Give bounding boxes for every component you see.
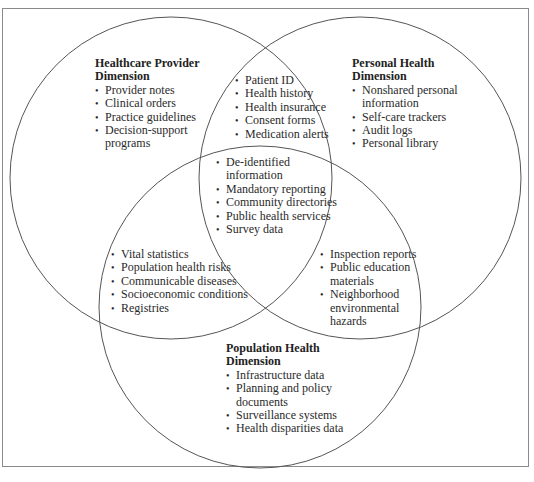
list-item: •Registries	[111, 302, 248, 315]
bullet-icon: •	[111, 288, 115, 301]
bullet-icon: •	[352, 111, 356, 124]
bullet-icon: •	[95, 97, 99, 110]
provider-title: Healthcare Provider Dimension	[95, 57, 200, 84]
list-item: •Consent forms	[235, 114, 329, 127]
list-item: •Clinical orders	[95, 97, 200, 110]
provider-population-list: •Vital statistics •Population health ris…	[111, 248, 248, 315]
bullet-icon: •	[216, 156, 220, 169]
bullet-icon: •	[111, 302, 115, 315]
list-item: •Audit logs	[352, 124, 458, 137]
bullet-icon: •	[216, 210, 220, 223]
all-three-list: •De-identified information •Mandatory re…	[216, 156, 337, 236]
bullet-icon: •	[352, 124, 356, 137]
bullet-icon: •	[111, 275, 115, 288]
bullet-icon: •	[216, 196, 220, 209]
list-item: •Inspection reports	[320, 248, 416, 261]
region-provider-population: •Vital statistics •Population health ris…	[111, 248, 248, 315]
list-item: •Self-care trackers	[352, 111, 458, 124]
list-item: •Nonshared personal information	[352, 84, 458, 111]
bullet-icon: •	[235, 128, 239, 141]
bullet-icon: •	[320, 288, 324, 301]
region-provider-only: Healthcare Provider Dimension •Provider …	[95, 57, 200, 151]
bullet-icon: •	[352, 84, 356, 97]
personal-title: Personal Health Dimension	[352, 57, 458, 84]
bullet-icon: •	[95, 84, 99, 97]
region-personal-only: Personal Health Dimension •Nonshared per…	[352, 57, 458, 151]
list-item: •Survey data	[216, 223, 337, 236]
list-item: •Medication alerts	[235, 128, 329, 141]
population-title: Population Health Dimension	[226, 342, 343, 369]
list-item: •Health history	[235, 87, 329, 100]
list-item: •Neighborhood environmental hazards	[320, 288, 416, 328]
list-item: •Infrastructure data	[226, 369, 343, 382]
list-item: •Socioeconomic conditions	[111, 288, 248, 301]
list-item: •Planning and policy documents	[226, 382, 343, 409]
list-item: •Mandatory reporting	[216, 183, 337, 196]
bullet-icon: •	[320, 248, 324, 261]
bullet-icon: •	[216, 223, 220, 236]
list-item: •Decision-support programs	[95, 124, 200, 151]
list-item: •Personal library	[352, 137, 458, 150]
list-item: •Vital statistics	[111, 248, 248, 261]
bullet-icon: •	[111, 261, 115, 274]
bullet-icon: •	[216, 183, 220, 196]
bullet-icon: •	[226, 382, 230, 395]
personal-population-list: •Inspection reports •Public education ma…	[320, 248, 416, 328]
population-list: •Infrastructure data •Planning and polic…	[226, 369, 343, 436]
list-item: •Public education materials	[320, 261, 416, 288]
provider-list: •Provider notes •Clinical orders •Practi…	[95, 84, 200, 151]
provider-personal-list: •Patient ID •Health history •Health insu…	[235, 74, 329, 141]
region-personal-population: •Inspection reports •Public education ma…	[320, 248, 416, 328]
list-item: •Provider notes	[95, 84, 200, 97]
list-item: •Community directories	[216, 196, 337, 209]
bullet-icon: •	[95, 111, 99, 124]
bullet-icon: •	[352, 137, 356, 150]
bullet-icon: •	[320, 261, 324, 274]
list-item: •Health insurance	[235, 101, 329, 114]
bullet-icon: •	[235, 101, 239, 114]
list-item: •Health disparities data	[226, 422, 343, 435]
bullet-icon: •	[226, 369, 230, 382]
list-item: •Surveillance systems	[226, 409, 343, 422]
list-item: •Public health services	[216, 210, 337, 223]
list-item: •Communicable diseases	[111, 275, 248, 288]
bullet-icon: •	[226, 422, 230, 435]
personal-list: •Nonshared personal information •Self-ca…	[352, 84, 458, 151]
region-all-three: •De-identified information •Mandatory re…	[216, 156, 337, 236]
bullet-icon: •	[235, 74, 239, 87]
list-item: •Population health risks	[111, 261, 248, 274]
bullet-icon: •	[226, 409, 230, 422]
list-item: •De-identified information	[216, 156, 337, 183]
bullet-icon: •	[95, 124, 99, 137]
region-provider-personal: •Patient ID •Health history •Health insu…	[235, 74, 329, 141]
region-population-only: Population Health Dimension •Infrastruct…	[226, 342, 343, 436]
list-item: •Practice guidelines	[95, 111, 200, 124]
bullet-icon: •	[111, 248, 115, 261]
bullet-icon: •	[235, 114, 239, 127]
list-item: •Patient ID	[235, 74, 329, 87]
bullet-icon: •	[235, 87, 239, 100]
